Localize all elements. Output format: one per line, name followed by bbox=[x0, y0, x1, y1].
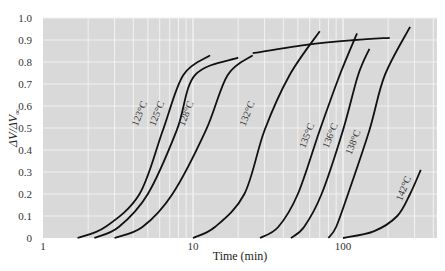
chart: 123°C125°C128°C132°C135°C136°C138°C142°C… bbox=[0, 0, 445, 271]
y-tick-label: 0.5 bbox=[18, 122, 32, 134]
y-axis-label-main: ΔV/ΔV bbox=[6, 113, 20, 148]
y-tick-label: 0.8 bbox=[18, 56, 32, 68]
y-tick-label: 0.2 bbox=[18, 188, 32, 200]
x-tick-label: 1 bbox=[40, 240, 46, 252]
y-axis-label: ΔV/ΔV∞ bbox=[6, 109, 22, 148]
y-tick-label: 0.9 bbox=[18, 34, 32, 46]
x-tick-label: 100 bbox=[335, 240, 352, 252]
y-axis-ticks: 00.10.20.30.40.50.60.70.80.91.0 bbox=[18, 12, 32, 244]
x-tick-label: 10 bbox=[188, 240, 200, 252]
y-tick-label: 0.3 bbox=[18, 166, 32, 178]
y-tick-label: 1.0 bbox=[18, 12, 32, 24]
y-tick-label: 0.1 bbox=[18, 210, 32, 222]
x-axis-label: Time (min) bbox=[213, 249, 268, 263]
x-axis-ticks: 110100 bbox=[40, 240, 352, 252]
y-tick-label: 0.4 bbox=[18, 144, 32, 156]
y-tick-label: 0.7 bbox=[18, 78, 32, 90]
y-tick-label: 0 bbox=[27, 232, 33, 244]
y-axis-label-sub: ∞ bbox=[13, 109, 22, 115]
